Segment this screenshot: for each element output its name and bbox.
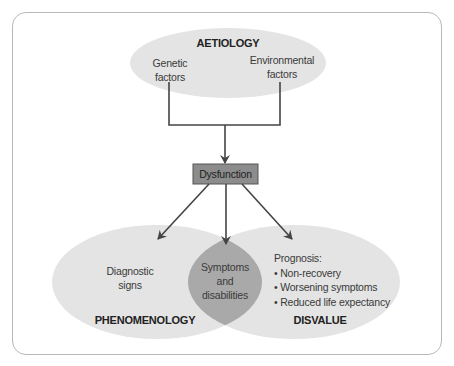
overlap-line-3: disabilities: [190, 288, 260, 302]
genetic-factors-label: Genetic factors: [140, 56, 200, 84]
prognosis-item: • Non-recovery: [274, 266, 404, 281]
prognosis-heading: Prognosis:: [274, 251, 404, 266]
diagnostic-line-2: signs: [95, 278, 165, 292]
environmental-line-1: Environmental: [242, 53, 322, 67]
overlap-line-2: and: [190, 274, 260, 288]
diagnostic-line-1: Diagnostic: [95, 264, 165, 278]
phenomenology-title: PHENOMENOLOGY: [85, 313, 205, 327]
environmental-line-2: factors: [242, 67, 322, 81]
diagnostic-signs-label: Diagnostic signs: [95, 264, 165, 292]
aetiology-title: AETIOLOGY: [178, 36, 278, 50]
prognosis-list: Prognosis: • Non-recovery • Worsening sy…: [274, 251, 404, 309]
genetic-line-2: factors: [140, 70, 200, 84]
prognosis-item: • Reduced life expectancy: [274, 295, 404, 310]
environmental-factors-label: Environmental factors: [242, 53, 322, 81]
dysfunction-label: Dysfunction: [193, 164, 258, 184]
genetic-line-1: Genetic: [140, 56, 200, 70]
disvalue-title: DISVALUE: [280, 313, 360, 327]
overlap-line-1: Symptoms: [190, 260, 260, 274]
prognosis-item: • Worsening symptoms: [274, 280, 404, 295]
symptoms-disabilities-label: Symptoms and disabilities: [190, 260, 260, 302]
